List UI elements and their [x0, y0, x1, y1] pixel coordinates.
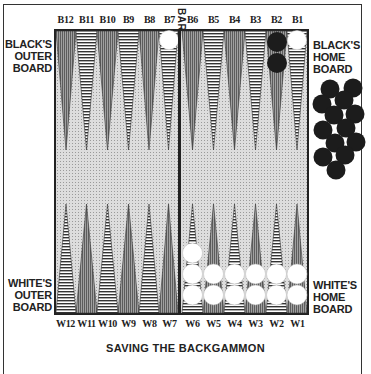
white-checker[interactable]: [267, 264, 287, 284]
point-label-w1: W1: [287, 318, 308, 329]
top-points: [56, 31, 307, 150]
point-label-w12: W12: [55, 318, 76, 329]
bar-divider: [178, 29, 181, 315]
black-checker: [327, 161, 346, 180]
point-b10[interactable]: [97, 31, 118, 150]
white-checker[interactable]: [246, 285, 266, 305]
diagram-title: SAVING THE BACKGAMMON: [0, 342, 371, 354]
point-label-w9: W9: [118, 318, 139, 329]
white-checker[interactable]: [287, 285, 307, 305]
point-label-w2: W2: [266, 318, 287, 329]
white-checker[interactable]: [183, 264, 203, 284]
white-checker[interactable]: [246, 264, 266, 284]
point-label-w3: W3: [245, 318, 266, 329]
white-checker[interactable]: [225, 285, 245, 305]
point-b3[interactable]: [245, 31, 266, 150]
point-b12[interactable]: [56, 31, 76, 150]
white-checker[interactable]: [225, 264, 245, 284]
point-b9[interactable]: [118, 31, 139, 150]
point-label-w6: W6: [182, 318, 203, 329]
white-checker[interactable]: [183, 243, 203, 263]
white-checker[interactable]: [288, 31, 307, 50]
point-b5[interactable]: [203, 31, 224, 150]
point-label-w5: W5: [203, 318, 224, 329]
point-b4[interactable]: [224, 31, 245, 150]
point-w10[interactable]: [97, 204, 118, 313]
point-w8[interactable]: [139, 204, 159, 313]
point-b6[interactable]: [182, 31, 203, 150]
point-w12[interactable]: [56, 204, 76, 313]
point-w9[interactable]: [118, 204, 139, 313]
point-w7[interactable]: [159, 204, 178, 313]
black-checker[interactable]: [267, 32, 287, 52]
point-label-w4: W4: [224, 318, 245, 329]
point-b11[interactable]: [76, 31, 97, 150]
point-w11[interactable]: [76, 204, 97, 313]
point-label-w7: W7: [159, 318, 180, 329]
white-checker[interactable]: [204, 285, 224, 305]
point-label-w8: W8: [139, 318, 160, 329]
point-label-w10: W10: [97, 318, 118, 329]
white-checker[interactable]: [267, 285, 287, 305]
black-checker[interactable]: [267, 53, 287, 73]
white-checker[interactable]: [287, 264, 307, 284]
white-checker[interactable]: [183, 285, 203, 305]
point-b8[interactable]: [139, 31, 159, 150]
white-checker[interactable]: [204, 264, 224, 284]
black-borne-off-checkers: [313, 79, 366, 180]
point-label-w11: W11: [76, 318, 97, 329]
white-checker[interactable]: [160, 31, 179, 50]
